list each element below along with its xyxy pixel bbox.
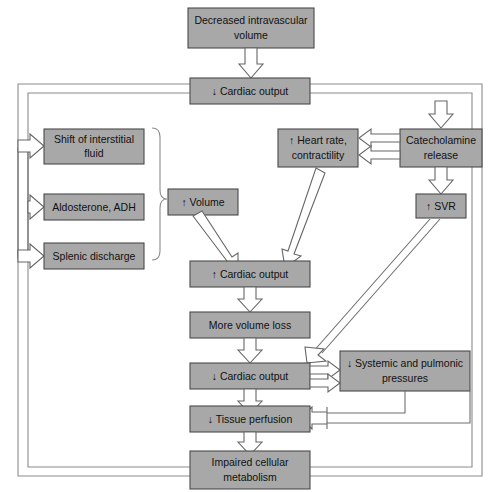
node-systemic-pressures: ↓ Systemic and pulmonic pressures (340, 351, 470, 391)
node-catecholamine-box (400, 129, 482, 167)
pressures-to-perfusion-connector (300, 391, 470, 429)
node-systemic-pressures-box (340, 351, 470, 391)
node-splenic-discharge: Splenic discharge (44, 243, 144, 269)
svr-diagonal-line-1 (312, 219, 430, 353)
node-shift-interstitial: Shift of interstitial fluid (44, 129, 144, 164)
arrow-volume-to-cardiac-output (239, 48, 263, 78)
node-aldosterone-adh: Aldosterone, ADH (44, 194, 144, 220)
arrow-to-shift-interstitial (18, 134, 44, 158)
pressures-to-perfusion-line-1 (327, 391, 405, 413)
svr-diagonal-line-2 (322, 219, 440, 353)
node-catecholamine: Catecholamine release (400, 129, 482, 167)
svr-diagonal-arrowhead (305, 347, 326, 363)
arrow-catecholamine-to-heart-rate-upper (359, 129, 400, 147)
node-volume-up-box (168, 189, 238, 215)
node-cardiac-output-down-1-box (190, 78, 310, 104)
node-shift-interstitial-box (44, 129, 144, 164)
arrow-to-splenic-discharge (18, 244, 44, 268)
left-group-brace (152, 128, 167, 260)
arrow-catecholamine-to-heart-rate-lower (359, 146, 400, 164)
svr-diagonal-connector (305, 219, 440, 363)
node-volume-up: ↑ Volume (168, 189, 238, 215)
node-impaired-metabolism-box (190, 451, 310, 489)
node-cardiac-output-up: ↑ Cardiac output (190, 261, 310, 287)
node-tissue-perfusion-box (190, 406, 310, 432)
node-decreased-volume: Decreased intravascular volume (188, 8, 314, 48)
node-splenic-discharge-box (44, 243, 144, 269)
brace-path (152, 128, 167, 260)
node-cardiac-output-down-2-box (190, 363, 310, 389)
node-heart-rate: ↑ Heart rate, contractility (278, 129, 358, 167)
flowchart-canvas: Decreased intravascular volume ↓ Cardiac… (0, 0, 496, 492)
node-cardiac-output-down-2: ↓ Cardiac output (190, 363, 310, 389)
flowchart-diagram: Decreased intravascular volume ↓ Cardiac… (0, 0, 496, 492)
arrow-volume-loss-to-cardiac-output-down (238, 338, 262, 363)
arrow-heart-rate-to-cardiac-output-up (282, 168, 325, 268)
arrow-to-aldosterone (28, 195, 44, 219)
node-svr-up: ↑ SVR (416, 194, 466, 218)
node-cardiac-output-up-box (190, 261, 310, 287)
node-more-volume-loss-box (190, 312, 310, 338)
node-more-volume-loss: More volume loss (190, 312, 310, 338)
node-cardiac-output-down-1: ↓ Cardiac output (190, 78, 310, 104)
node-impaired-metabolism: Impaired cellular metabolism (190, 451, 310, 489)
arrow-cardiac-output-to-pressures-lower (310, 374, 340, 392)
left-branch-connectors (18, 134, 44, 268)
arrow-cardiac-output-to-pressures-upper (310, 361, 340, 379)
pressures-to-perfusion-line-2 (327, 391, 470, 423)
node-tissue-perfusion: ↓ Tissue perfusion (190, 406, 310, 432)
node-aldosterone-adh-box (44, 194, 144, 220)
arrow-loop-to-catecholamine (429, 101, 453, 128)
arrow-catecholamine-to-svr (429, 167, 453, 194)
node-svr-up-box (416, 194, 466, 218)
arrow-cardiac-output-up-to-volume-loss (238, 287, 262, 312)
node-decreased-volume-box (188, 8, 314, 48)
node-heart-rate-box (278, 129, 358, 167)
